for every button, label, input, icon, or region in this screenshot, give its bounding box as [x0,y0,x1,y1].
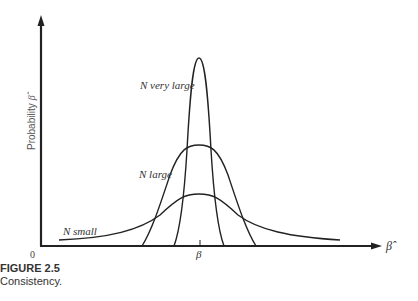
x-axis-label: β̂ [385,239,397,253]
label-n-small: N small [62,225,97,237]
x-axis-arrow-icon [371,243,382,250]
y-axis-arrow-icon [38,15,45,26]
label-n-large: N large [138,168,172,180]
consistency-chart: N very large N large N small Probability… [0,0,418,262]
origin-label: 0 [30,249,35,260]
figure-title: Consistency. [0,275,62,287]
label-n-very-large: N very large [139,79,195,91]
y-axis-label-text: Probability [26,103,37,150]
figure-number: FIGURE 2.5 [0,262,60,274]
curve-n-small [59,194,340,240]
y-axis-label-symbol: β̂ [26,91,37,101]
curve-n-large [142,145,256,246]
y-axis-label: Probabilityβ̂ [26,91,37,150]
beta-tick-label: β [195,248,202,260]
